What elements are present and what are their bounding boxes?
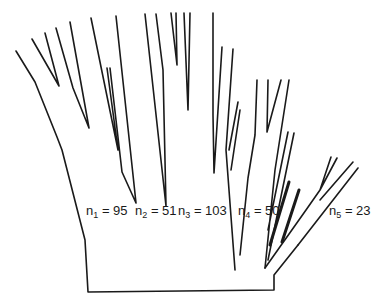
clade-2-branches [91, 16, 136, 203]
label-subscript: 4 [245, 210, 250, 220]
clade-label-n3: n3 = 103 [178, 204, 227, 220]
base-outline [16, 51, 298, 292]
label-subscript: 3 [185, 210, 190, 220]
label-subscript: 5 [336, 210, 341, 220]
clade-label-n2: n2 = 51 [135, 204, 177, 220]
label-subscript: 2 [142, 210, 147, 220]
clade-label-n1: n1 = 95 [86, 204, 128, 220]
label-value: = 51 [151, 203, 177, 218]
label-subscript: 1 [93, 210, 98, 220]
clade-4-branches [213, 13, 257, 270]
clade-label-n5: n5 = 23 [329, 204, 371, 220]
clade-label-n4: n4 = 50 [238, 204, 280, 220]
tree-diagram [0, 0, 380, 307]
label-value: = 50 [254, 203, 280, 218]
label-value: = 23 [345, 203, 371, 218]
clade-5-branches [265, 80, 294, 268]
label-value: = 103 [194, 203, 227, 218]
label-value: = 95 [102, 203, 128, 218]
clade-1-branches [32, 22, 89, 128]
clade-3-branches [145, 13, 190, 206]
